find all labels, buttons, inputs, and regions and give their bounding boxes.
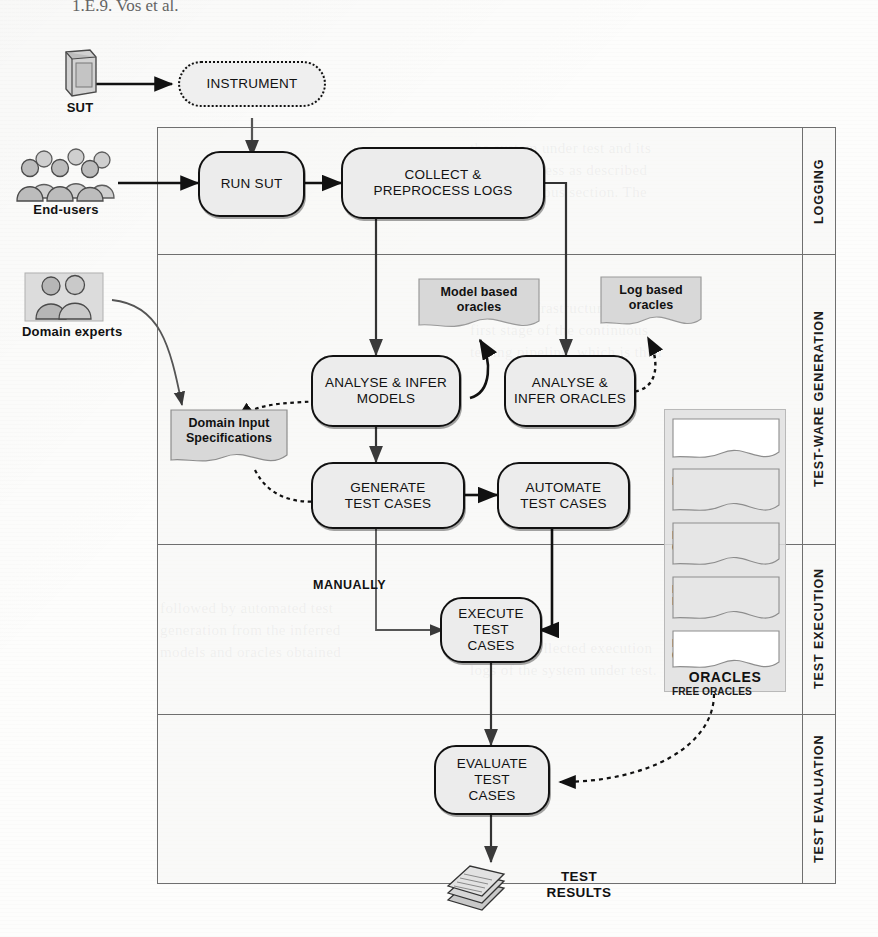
node-generate-test-cases[interactable]: GENERATETEST CASES [311, 462, 465, 529]
people-group-icon [14, 146, 118, 202]
artifact-test-results-icon [440, 860, 516, 922]
oracle-item-pattern-based[interactable]: PATTERN BASEDORACLES [672, 468, 780, 520]
lane-divider-3 [158, 714, 835, 715]
document-shape [672, 576, 780, 628]
document-stack-icon [440, 860, 516, 922]
oracle-item-human[interactable]: HUMAN ORACLES [672, 418, 780, 466]
node-analyse-infer-models[interactable]: ANALYSE & INFERMODELS [311, 355, 461, 427]
oracles-panel: HUMAN ORACLES PATTERN BASEDORACLES PROPE… [664, 409, 786, 692]
lane-label-test-ware-generation: TEST-WARE GENERATION [802, 254, 835, 544]
test-results-text: TESTRESULTS [547, 869, 612, 900]
sut-device-icon [52, 48, 108, 100]
node-execute-test-cases[interactable]: EXECUTETEST CASES [440, 597, 542, 663]
artifact-log-based-oracles[interactable]: Log basedoracles [600, 276, 702, 332]
node-analyse-infer-oracles[interactable]: ANALYSE &INFER ORACLES [504, 355, 636, 427]
lane-divider-1 [158, 254, 835, 255]
node-instrument[interactable]: INSTRUMENT [178, 61, 326, 107]
oracles-panel-caption: ORACLES [665, 669, 785, 685]
oracle-item-model-based[interactable]: MODEL BASEDORACLES [672, 576, 780, 628]
page-header-fragment: 1.E.9. Vos et al. [72, 0, 179, 16]
lane-label-logging: LOGGING [802, 128, 835, 254]
artifact-label: Log basedoracles [600, 276, 702, 314]
edge-label-manually: MANUALLY [313, 578, 386, 592]
document-shape [672, 522, 780, 574]
lane-label-column: LOGGING TEST-WARE GENERATION TEST EXECUT… [802, 128, 835, 883]
actor-domain-experts: Domain experts [22, 272, 114, 340]
actor-end-users: End-users [14, 146, 118, 218]
artifact-model-based-oracles[interactable]: Model basedoracles [418, 278, 540, 334]
document-shape [672, 468, 780, 520]
actor-sut: SUT [52, 48, 108, 114]
node-evaluate-test-cases[interactable]: EVALUATE TESTCASES [434, 745, 550, 815]
artifact-test-results-label: TESTRESULTS [524, 869, 634, 901]
document-shape [672, 418, 780, 466]
lane-label-test-evaluation: TEST EVALUATION [802, 714, 835, 883]
two-people-icon [22, 272, 114, 324]
artifact-label: Domain InputSpecifications [170, 409, 288, 447]
oracle-item-properties-based[interactable]: PROPERTIESBASED ORACLES [672, 522, 780, 574]
node-automate-test-cases[interactable]: AUTOMATETEST CASES [497, 462, 630, 529]
node-collect-preprocess-logs[interactable]: COLLECT &PREPROCESS LOGS [341, 147, 545, 219]
sut-caption: SUT [52, 100, 108, 115]
artifact-label: Model basedoracles [418, 278, 540, 316]
end-users-caption: End-users [14, 202, 118, 217]
artifact-domain-input-specifications[interactable]: Domain InputSpecifications [170, 409, 288, 471]
node-run-sut[interactable]: RUN SUT [198, 151, 305, 217]
domain-experts-caption: Domain experts [22, 324, 114, 339]
lane-label-test-execution: TEST EXECUTION [802, 544, 835, 714]
